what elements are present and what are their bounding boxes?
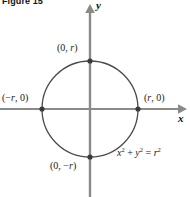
y-axis-label: y xyxy=(96,0,101,11)
point-marker-left xyxy=(39,106,44,111)
x-axis xyxy=(0,104,187,114)
equation-equals: = xyxy=(143,147,154,158)
x-axis-label: x xyxy=(178,112,184,124)
equation-r-exponent: 2 xyxy=(158,146,161,153)
point-marker-top xyxy=(87,58,92,63)
y-axis xyxy=(85,4,95,197)
label-point-right-close: , 0) xyxy=(151,92,164,103)
label-point-left-close: , 0) xyxy=(15,92,28,103)
label-point-right: (r, 0) xyxy=(144,92,165,103)
label-point-top-open: (0, xyxy=(57,42,70,53)
figure-container: Figure 15 x y (0, r) (r, 0) (0, −r) (−r,… xyxy=(0,0,190,197)
label-point-left-open: (− xyxy=(2,92,11,103)
point-marker-right xyxy=(135,106,140,111)
label-point-left: (−r, 0) xyxy=(2,92,28,103)
label-point-bottom-open: (0, − xyxy=(50,160,69,171)
label-point-bottom-close: ) xyxy=(73,160,76,171)
label-point-top: (0, r) xyxy=(57,42,78,53)
label-point-top-close: ) xyxy=(74,42,77,53)
circle-equation: x2 + y2 = r2 xyxy=(117,147,161,158)
label-point-bottom: (0, −r) xyxy=(50,160,76,171)
point-marker-bottom xyxy=(87,154,92,159)
equation-plus: + xyxy=(125,147,136,158)
